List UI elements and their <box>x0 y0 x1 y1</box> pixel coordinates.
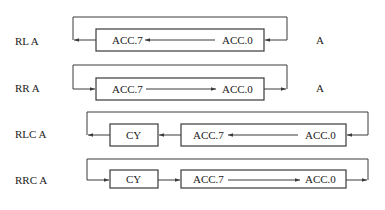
acc0-label-rlc: ACC.0 <box>305 129 336 141</box>
row-rl: RL A ACC.7 ACC.0 A <box>15 17 324 51</box>
operand-label-rr: A <box>316 82 324 94</box>
instruction-label-rl: RL A <box>15 35 39 47</box>
acc7-label-rl: ACC.7 <box>112 34 143 46</box>
carry-label-rlc: CY <box>126 129 141 141</box>
rotate-instructions-diagram: RL A ACC.7 ACC.0 A RR A ACC.7 ACC.0 A RL… <box>0 0 385 210</box>
row-rr: RR A ACC.7 ACC.0 A <box>15 65 324 100</box>
instruction-label-rr: RR A <box>15 82 40 94</box>
acc0-label-rl: ACC.0 <box>222 34 253 46</box>
acc7-label-rlc: ACC.7 <box>193 129 224 141</box>
instruction-label-rrc: RRC A <box>15 174 47 186</box>
acc0-label-rr: ACC.0 <box>222 83 253 95</box>
acc7-label-rrc: ACC.7 <box>193 173 224 185</box>
acc0-label-rrc: ACC.0 <box>305 173 336 185</box>
operand-label-rl: A <box>316 34 324 46</box>
carry-label-rrc: CY <box>126 173 141 185</box>
row-rrc: RRC A CY ACC.7 ACC.0 <box>15 159 368 188</box>
row-rlc: RLC A CY ACC.7 ACC.0 <box>15 112 368 146</box>
instruction-label-rlc: RLC A <box>15 128 47 140</box>
acc7-label-rr: ACC.7 <box>112 83 143 95</box>
